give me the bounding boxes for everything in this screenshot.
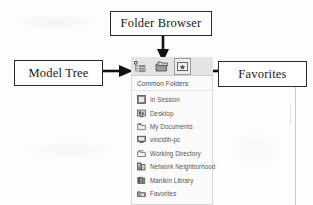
computer-icon [137,135,146,144]
list-item-label: vincidih-pc [150,136,180,143]
favorites-icon [177,61,188,72]
callout-favorites: Favorites [218,61,307,87]
manikin-library-icon [137,176,146,185]
list-item-label: Manikin Library [150,177,193,184]
list-item-label: Working Directory [150,150,201,157]
list-item[interactable]: Network Neighborhood [132,160,212,173]
list-item-label: My Documents [150,123,193,130]
network-neighborhood-icon [137,162,146,171]
page-edge-line [295,84,296,205]
arrow-model-tree-to-toolbar [103,64,133,78]
folder-browser-toolbar-button[interactable] [153,58,170,75]
callout-model-tree-label: Model Tree [29,66,89,81]
in-session-icon [137,95,146,104]
page-edge-line-secondary [290,104,291,124]
callout-folder-browser: Folder Browser [110,11,212,36]
list-item-label: Desktop [150,110,173,117]
common-folders-list: Common Folders In Session Desktop [131,76,213,205]
list-item-label: Network Neighborhood [150,163,215,170]
common-folders-heading: Common Folders [132,79,212,91]
list-item[interactable]: Desktop [132,106,212,119]
callout-favorites-label: Favorites [238,67,286,82]
callout-folder-browser-label: Folder Browser [121,16,202,31]
list-item-label: In Session [150,96,180,103]
callout-model-tree: Model Tree [14,60,103,86]
list-item[interactable]: Working Directory [132,147,212,160]
favorites-toolbar-button[interactable] [174,58,191,75]
list-item[interactable]: In Session [132,93,212,106]
my-documents-icon [137,122,146,131]
list-item[interactable]: My Documents [132,120,212,133]
folder-browser-icon [155,60,169,73]
list-item[interactable]: vincidih-pc [132,133,212,146]
desktop-icon [137,109,146,118]
model-tree-icon [134,60,147,73]
navigator-toolbar [131,57,213,76]
folder-browser-panel: Common Folders In Session Desktop [131,57,213,205]
list-item[interactable]: Manikin Library [132,173,212,186]
list-item[interactable]: Favorites [132,187,212,200]
favorites-folder-icon [137,189,146,198]
working-directory-icon [137,149,146,158]
list-item-label: Favorites [150,190,176,197]
model-tree-toolbar-button[interactable] [132,58,149,75]
